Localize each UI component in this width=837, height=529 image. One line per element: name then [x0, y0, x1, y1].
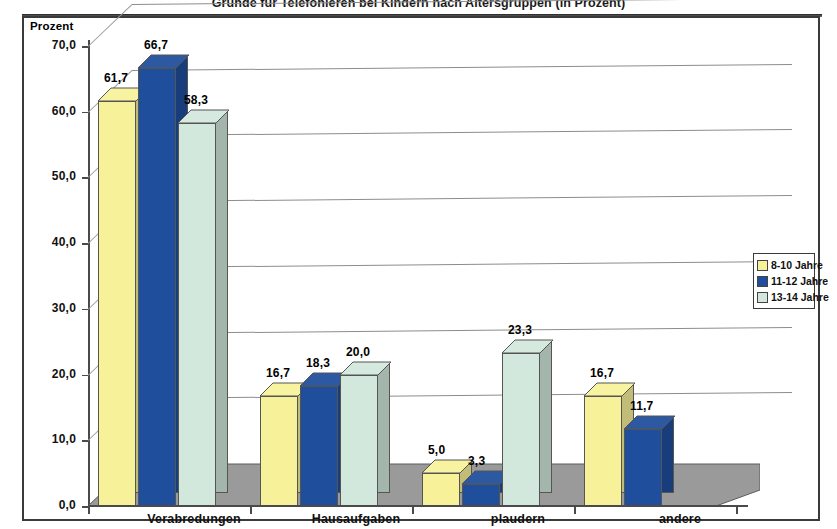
- bar-side: [378, 362, 390, 493]
- y-tick-label: 10,0: [20, 432, 76, 446]
- chart-screenshot: Gründe für Telefonieren bei Kindern nach…: [0, 0, 837, 529]
- legend-swatch-8-10: [757, 260, 768, 271]
- category-label-hausaufgaben: Hausaufgaben: [266, 512, 446, 526]
- bar-2-0: [422, 460, 460, 506]
- value-label-1-1: 18,3: [306, 356, 330, 370]
- bar-front: [138, 68, 176, 506]
- bar-front: [584, 396, 622, 506]
- bar-1-2: [340, 362, 378, 506]
- x-axis-line: [88, 505, 748, 507]
- y-tick-label: 0,0: [20, 498, 76, 512]
- legend-label-13-14: 13-14 Jahre: [771, 291, 829, 303]
- legend-swatch-11-12: [757, 276, 768, 287]
- bar-0-1: [138, 55, 176, 506]
- bar-3-1: [624, 416, 662, 506]
- bar-front: [624, 429, 662, 506]
- value-label-2-0: 5,0: [428, 443, 445, 457]
- value-label-3-1: 11,7: [630, 399, 654, 413]
- bar-2-2: [502, 340, 540, 506]
- bar-0-2: [178, 110, 216, 506]
- category-label-verabredungen: Verabredungen: [104, 512, 284, 526]
- bar-front: [300, 386, 338, 506]
- legend-item-13-14: 13-14 Jahre: [757, 289, 811, 305]
- bar-front: [462, 484, 500, 506]
- value-label-3-0: 16,7: [590, 366, 614, 380]
- bar-side: [540, 340, 552, 493]
- value-label-2-2: 23,3: [508, 323, 532, 337]
- bar-side: [216, 110, 228, 493]
- category-label-andere: andere: [590, 512, 770, 526]
- value-label-0-1: 66,7: [144, 38, 168, 52]
- bar-front: [98, 101, 136, 506]
- bar-front: [502, 353, 540, 506]
- bar-1-1: [300, 373, 338, 506]
- y-tick-label: 20,0: [20, 367, 76, 381]
- value-label-1-2: 20,0: [346, 345, 370, 359]
- bar-0-0: [98, 88, 136, 506]
- bar-2-1: [462, 471, 500, 506]
- legend-item-11-12: 11-12 Jahre: [757, 273, 811, 289]
- value-label-2-1: 3,3: [468, 454, 485, 468]
- y-axis-title: Prozent: [30, 20, 74, 32]
- legend-swatch-13-14: [757, 292, 768, 303]
- y-tick-label: 50,0: [20, 169, 76, 183]
- legend: 8-10 Jahre 11-12 Jahre 13-14 Jahre: [753, 253, 815, 309]
- y-tick-label: 30,0: [20, 301, 76, 315]
- legend-label-8-10: 8-10 Jahre: [771, 259, 823, 271]
- y-tick-label: 40,0: [20, 235, 76, 249]
- value-label-0-0: 61,7: [104, 71, 128, 85]
- value-label-0-2: 58,3: [184, 93, 208, 107]
- bar-front: [178, 123, 216, 506]
- value-label-1-0: 16,7: [266, 366, 290, 380]
- bar-front: [422, 473, 460, 506]
- bar-3-0: [584, 383, 622, 506]
- bar-front: [260, 396, 298, 506]
- y-tick-label: 70,0: [20, 38, 76, 52]
- x-tick-mark: [88, 505, 90, 514]
- category-label-plaudern: plaudern: [428, 512, 608, 526]
- legend-label-11-12: 11-12 Jahre: [771, 275, 828, 287]
- legend-item-8-10: 8-10 Jahre: [757, 257, 811, 273]
- y-tick-label: 60,0: [20, 104, 76, 118]
- bar-1-0: [260, 383, 298, 506]
- bar-front: [340, 375, 378, 506]
